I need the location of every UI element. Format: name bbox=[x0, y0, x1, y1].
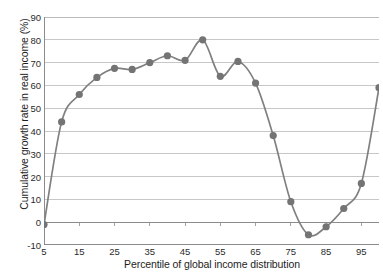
y-tick-label: 0 bbox=[1, 217, 41, 228]
x-tick-label: 5 bbox=[41, 246, 46, 257]
data-point-marker bbox=[358, 180, 365, 187]
data-point-marker bbox=[252, 80, 259, 87]
x-tick-label: 45 bbox=[180, 246, 191, 257]
x-tick-label: 75 bbox=[286, 246, 297, 257]
x-axis-title: Percentile of global income distribution bbox=[44, 258, 380, 270]
series-line bbox=[44, 40, 379, 236]
data-point-marker bbox=[93, 74, 100, 81]
y-tick-label: 70 bbox=[1, 57, 41, 68]
y-tick-label: 10 bbox=[1, 194, 41, 205]
y-tick-label: 40 bbox=[1, 126, 41, 137]
data-point-marker bbox=[58, 118, 65, 125]
data-point-marker bbox=[287, 198, 294, 205]
series-markers bbox=[44, 36, 379, 238]
y-tick-label: 90 bbox=[1, 12, 41, 23]
x-tick-label: 55 bbox=[215, 246, 226, 257]
chart-plot-svg bbox=[44, 17, 379, 245]
y-tick-label: 80 bbox=[1, 34, 41, 45]
data-point-marker bbox=[146, 59, 153, 66]
y-tick-label: 50 bbox=[1, 103, 41, 114]
data-point-marker bbox=[234, 58, 241, 65]
gridlines bbox=[44, 17, 379, 245]
x-tick-label: 25 bbox=[109, 246, 120, 257]
x-tick-label: 85 bbox=[321, 246, 332, 257]
data-point-marker bbox=[111, 65, 118, 72]
chart-container: Cumulative growth rate in real income (%… bbox=[0, 0, 383, 280]
data-point-marker bbox=[217, 73, 224, 80]
data-point-marker bbox=[270, 132, 277, 139]
x-tick-label: 65 bbox=[250, 246, 261, 257]
data-point-marker bbox=[323, 223, 330, 230]
data-point-marker bbox=[305, 231, 312, 238]
data-point-marker bbox=[340, 205, 347, 212]
data-point-marker bbox=[164, 52, 171, 59]
x-tick-label: 95 bbox=[356, 246, 367, 257]
data-point-marker bbox=[76, 91, 83, 98]
x-tick-label: 15 bbox=[74, 246, 85, 257]
x-tick-label: 35 bbox=[144, 246, 155, 257]
y-axis-tick-labels: -100102030405060708090 bbox=[0, 0, 41, 280]
data-point-marker bbox=[129, 66, 136, 73]
data-point-marker bbox=[199, 36, 206, 43]
y-tick-label: 30 bbox=[1, 148, 41, 159]
y-tick-label: 60 bbox=[1, 80, 41, 91]
y-tick-label: 20 bbox=[1, 171, 41, 182]
plot-area bbox=[44, 17, 379, 245]
data-point-marker bbox=[181, 57, 188, 64]
